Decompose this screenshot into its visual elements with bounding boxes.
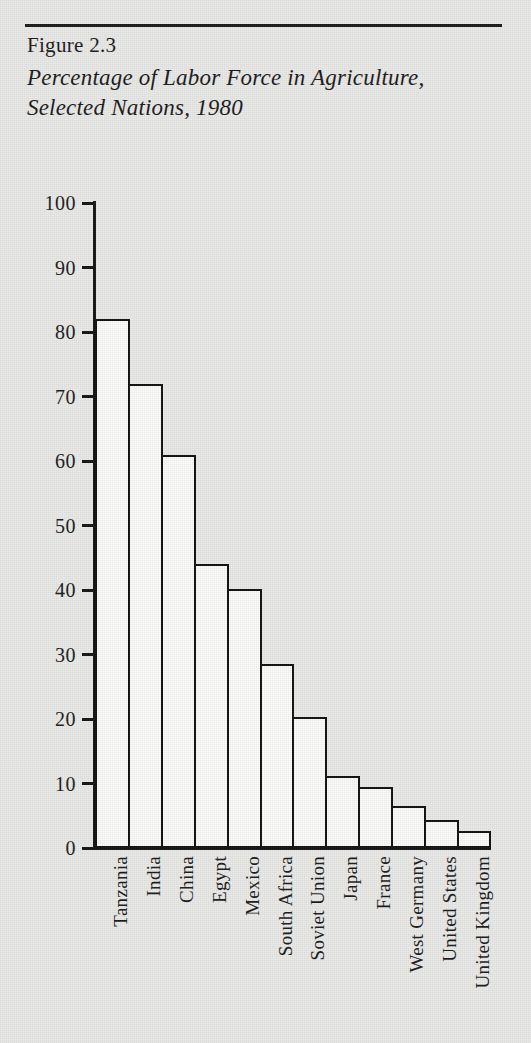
bar-chart: 1009080706050403020100 TanzaniaIndiaChin… [0,0,531,1043]
x-axis-tick-labels: TanzaniaIndiaChinaEgyptMexicoSouth Afric… [95,852,489,1042]
y-axis-tick [82,266,95,269]
y-axis-tick-label: 80 [18,322,76,342]
y-axis-tick [82,847,95,850]
x-axis-tick-label: United Kingdom [473,856,492,988]
y-axis-tick-label: 40 [18,580,76,600]
x-axis-label-slot: India [128,852,161,1042]
x-axis-label-slot: Tanzania [95,852,128,1042]
bar [292,717,327,848]
y-axis-tick [82,202,95,205]
x-axis-label-slot: France [358,852,391,1042]
y-axis-tick [82,653,95,656]
y-axis-tick-label: 70 [18,387,76,407]
bar-series [95,203,489,848]
bar [128,384,163,848]
x-axis-label-slot: Egypt [194,852,227,1042]
bar [161,455,196,848]
y-axis-tick-label: 0 [18,838,76,858]
y-axis-tick-label: 50 [18,516,76,536]
x-axis-label-slot: Japan [325,852,358,1042]
x-axis-label-slot: West Germany [391,852,424,1042]
x-axis-label-slot: United Kingdom [456,852,489,1042]
x-axis-label-slot: China [161,852,194,1042]
y-axis-tick [82,460,95,463]
y-axis-tick [82,589,95,592]
y-axis-tick-label: 100 [18,193,76,213]
bar [194,564,229,848]
x-axis-label-slot: Mexico [226,852,259,1042]
bar [456,831,491,848]
x-axis-label-slot: United States [423,852,456,1042]
y-axis-tick [82,395,95,398]
x-axis-label-slot: South Africa [259,852,292,1042]
bar [391,806,426,848]
y-axis-tick [82,718,95,721]
bar [95,319,130,848]
y-axis-tick-label: 90 [18,258,76,278]
y-axis-tick-label: 60 [18,451,76,471]
y-axis-tick [82,524,95,527]
bar [423,820,458,848]
x-axis-label-slot: Soviet Union [292,852,325,1042]
bar [325,776,360,848]
y-axis-tick [82,331,95,334]
bar [226,589,261,848]
figure-page: Figure 2.3 Percentage of Labor Force in … [0,0,531,1043]
bar [259,664,294,848]
bar [358,787,393,848]
y-axis-tick-label: 30 [18,645,76,665]
y-axis-tick-label: 20 [18,709,76,729]
y-axis-tick [82,782,95,785]
y-axis-tick-label: 10 [18,774,76,794]
